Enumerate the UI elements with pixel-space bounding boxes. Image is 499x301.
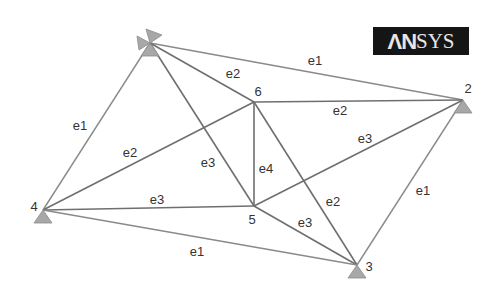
edge-label: e2: [333, 104, 347, 117]
edge-label: e2: [326, 195, 340, 208]
edge-6-2: [254, 100, 463, 102]
edge-label: e3: [201, 156, 215, 169]
edge-label: e3: [298, 216, 312, 229]
edge-6-3: [254, 102, 357, 265]
edge-label: e1: [73, 119, 87, 132]
edge-label: e1: [416, 184, 430, 197]
ansys-logo: ΛNSYS: [373, 27, 469, 55]
edge-1-4: [43, 43, 150, 210]
edge-label: e3: [150, 193, 164, 206]
edge-label: e2: [123, 146, 137, 159]
supports-layer: [34, 29, 472, 278]
edge-5-4: [43, 206, 254, 210]
edge-label: e3: [358, 132, 372, 145]
node-label: 4: [30, 200, 37, 213]
node-label: 2: [464, 82, 471, 95]
edge-label: e1: [190, 245, 204, 258]
node-label: 6: [254, 85, 261, 98]
edge-label: e2: [226, 67, 240, 80]
support-triangle-icon: [454, 100, 472, 113]
support-triangle-icon: [146, 29, 162, 43]
support-triangle-icon: [348, 265, 366, 278]
node-label: 5: [248, 213, 255, 226]
edge-2-3: [357, 100, 463, 265]
ansys-logo-bold-part: ΛN: [387, 29, 416, 55]
edges-layer: [43, 43, 463, 265]
ansys-logo-thin-part: SYS: [416, 29, 455, 54]
node-label: 3: [365, 260, 372, 273]
edge-label: e1: [308, 54, 322, 67]
edge-label: e4: [259, 162, 273, 175]
